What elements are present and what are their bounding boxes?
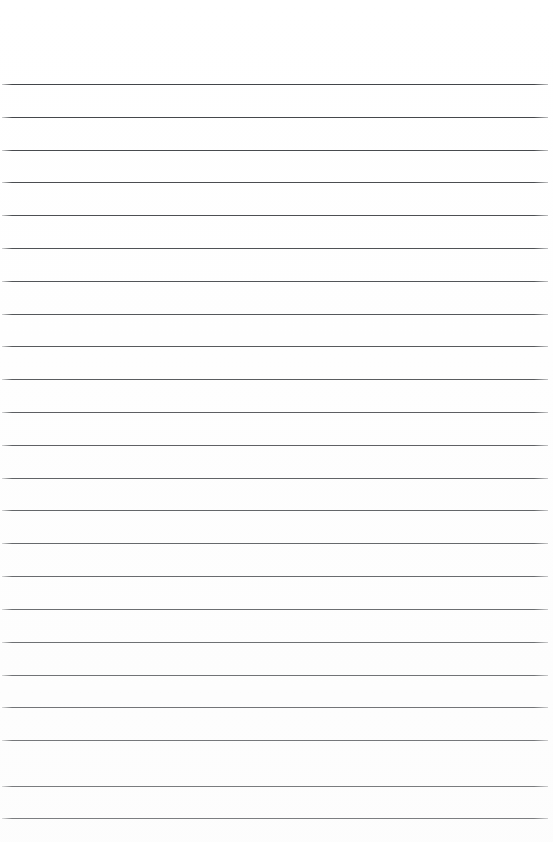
writing-area[interactable] — [2, 84, 548, 824]
ruled-paper-page — [0, 0, 553, 842]
